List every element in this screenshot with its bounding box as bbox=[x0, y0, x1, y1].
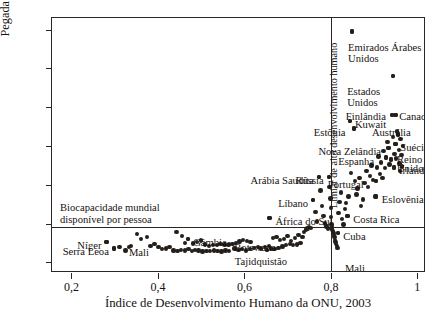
data-point bbox=[380, 176, 384, 180]
data-point bbox=[366, 185, 370, 189]
data-point bbox=[375, 165, 379, 169]
x-axis-tick bbox=[244, 273, 245, 279]
data-point bbox=[313, 210, 317, 214]
ecological-footprint-hdi-scatter-chart: Emirados ÁrabesUnidosEstadosUnidosCanadá… bbox=[0, 0, 448, 325]
y-axis-tick bbox=[46, 107, 52, 108]
data-point bbox=[123, 248, 127, 252]
point-label-mali: Mali bbox=[129, 247, 149, 259]
point-label-canad: Canadá bbox=[399, 111, 424, 123]
data-point bbox=[349, 171, 353, 175]
point-label-sucia: Suécia bbox=[400, 142, 424, 154]
x-axis-tick bbox=[158, 273, 159, 279]
x-axis-tick-label: 0,8 bbox=[323, 280, 338, 295]
point-label-estados: Estados bbox=[347, 86, 380, 98]
y-axis-tick bbox=[46, 224, 52, 225]
data-point bbox=[383, 166, 387, 170]
x-axis-tick-label: 0,6 bbox=[237, 280, 252, 295]
reference-line-biocapacidade-mundial bbox=[52, 227, 424, 228]
data-point bbox=[341, 222, 345, 226]
point-label-botswana: Botswana bbox=[234, 242, 276, 254]
point-label-eslovnia: Eslovênia bbox=[382, 194, 424, 206]
biocapacity-note-line2: disponível por pessoa bbox=[60, 214, 152, 226]
data-point-áfrica-do-sul bbox=[267, 216, 271, 220]
data-point-irlanda bbox=[392, 165, 396, 169]
point-label-cuba: Cuba bbox=[343, 231, 365, 243]
data-point-estados-unidos bbox=[391, 74, 395, 78]
y-axis-tick bbox=[46, 262, 52, 263]
data-point-eslovênia bbox=[374, 194, 378, 198]
data-point-cuba bbox=[336, 231, 340, 235]
data-point bbox=[135, 232, 139, 236]
data-point-costa-rica bbox=[345, 214, 349, 218]
point-label-gmbia: Gâmbia bbox=[193, 237, 227, 249]
data-point bbox=[344, 201, 348, 205]
point-label-estados-2: Unidos bbox=[347, 97, 378, 109]
data-point-espanha bbox=[384, 155, 388, 159]
data-point bbox=[339, 190, 343, 194]
point-label-irlanda: Irlanda bbox=[399, 165, 424, 177]
data-point-líbano bbox=[311, 198, 315, 202]
point-label-costa-rica: Costa Rica bbox=[353, 214, 399, 226]
y-axis-tick bbox=[46, 185, 52, 186]
data-point bbox=[359, 204, 363, 208]
point-label-frica-do-sul: África do Sul bbox=[275, 216, 332, 228]
data-point-suécia bbox=[393, 142, 397, 146]
data-point bbox=[392, 152, 396, 156]
plot-area: Emirados ÁrabesUnidosEstadosUnidosCanadá… bbox=[52, 18, 424, 271]
plot-frame: Emirados ÁrabesUnidosEstadosUnidosCanadá… bbox=[51, 17, 425, 272]
data-point bbox=[117, 245, 121, 249]
biocapacity-note-line1: Biocapacidade mundial bbox=[60, 202, 160, 214]
data-point bbox=[174, 230, 178, 234]
data-point-reino-unido bbox=[389, 157, 393, 161]
data-point bbox=[361, 197, 365, 201]
y-axis-tick bbox=[46, 30, 52, 31]
point-label-arbia-saudita: Arábia Saudita bbox=[52, 175, 314, 187]
data-point bbox=[298, 241, 302, 245]
data-point bbox=[285, 234, 289, 238]
x-axis-title: Índice de Desenvolvimento Humano da ONU,… bbox=[51, 296, 425, 311]
data-point bbox=[139, 237, 143, 241]
data-point bbox=[300, 235, 304, 239]
data-point bbox=[354, 192, 358, 196]
y-axis-title-plain: Pegada ecológica bbox=[0, 0, 12, 37]
y-axis-title: Pegada ecológica per capita bbox=[0, 0, 13, 52]
data-point-emirados-árabes-unidos bbox=[350, 29, 354, 33]
data-point bbox=[318, 188, 322, 192]
point-label-mali: Mali bbox=[345, 263, 365, 271]
data-point bbox=[343, 207, 347, 211]
data-point bbox=[364, 169, 368, 173]
data-point bbox=[180, 234, 184, 238]
data-point-portugal bbox=[374, 179, 378, 183]
point-label-tajidquisto: Tajidquistão bbox=[235, 256, 287, 268]
point-label-emirados-rabes-2: Unidos bbox=[348, 53, 379, 65]
data-point-gâmbia bbox=[186, 237, 190, 241]
data-point bbox=[335, 246, 339, 250]
data-point bbox=[379, 160, 383, 164]
x-axis-tick bbox=[417, 273, 418, 279]
data-point-níger bbox=[104, 240, 108, 244]
x-axis-tick bbox=[331, 273, 332, 279]
y-axis-tick bbox=[46, 68, 52, 69]
x-axis-tick-label: 0,4 bbox=[150, 280, 165, 295]
data-point bbox=[336, 211, 340, 215]
threshold-note: Limiar de alto desenvolvimento humano bbox=[328, 43, 339, 208]
point-label-serra-leoa: Serra Leoa bbox=[52, 246, 109, 258]
x-axis-tick-label: 1 bbox=[414, 280, 420, 295]
x-axis-tick-label: 0,2 bbox=[64, 280, 79, 295]
data-point bbox=[320, 204, 324, 208]
y-axis-tick bbox=[46, 146, 52, 147]
data-point bbox=[346, 194, 350, 198]
data-point bbox=[385, 140, 389, 144]
data-point bbox=[381, 149, 385, 153]
data-point-serra-leoa bbox=[112, 246, 116, 250]
x-axis-tick bbox=[71, 273, 72, 279]
data-point bbox=[145, 235, 149, 239]
point-label-espanha: Espanha bbox=[338, 156, 374, 168]
point-label-austrlia: Austrália bbox=[372, 127, 411, 139]
data-point bbox=[227, 249, 231, 253]
data-point bbox=[340, 217, 344, 221]
data-point bbox=[183, 241, 187, 245]
point-label-emirados-rabes: Emirados Árabes bbox=[348, 42, 421, 54]
data-point-nova-zelândia bbox=[386, 146, 390, 150]
